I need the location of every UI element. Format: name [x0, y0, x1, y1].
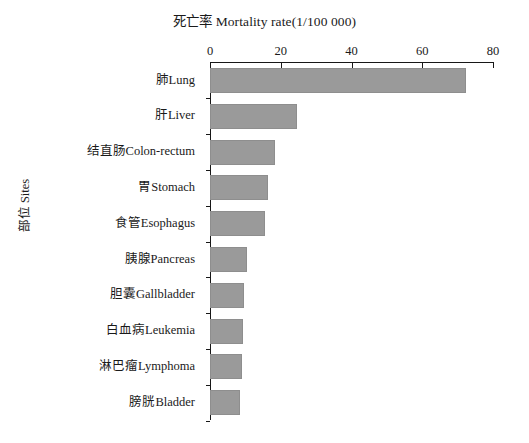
y-axis-tick	[206, 134, 210, 135]
category-label: 肝Liver	[0, 109, 202, 122]
x-axis-tick-label: 40	[332, 44, 372, 59]
bar	[210, 354, 242, 379]
mortality-rate-bar-chart: 死亡率 Mortality rate(1/100 000) 部位 Sites 肺…	[0, 0, 529, 443]
category-label: 胆囊Gallbladder	[0, 288, 202, 301]
y-axis-tick	[206, 313, 210, 314]
bar	[210, 104, 297, 129]
y-axis-tick	[206, 206, 210, 207]
x-axis-tick-label: 0	[190, 44, 230, 59]
y-axis-tick	[206, 385, 210, 386]
x-axis-tick-label: 20	[261, 44, 301, 59]
category-label: 白血病Leukemia	[0, 324, 202, 337]
x-axis-tick-label: 80	[473, 44, 513, 59]
x-axis-tick-label: 60	[402, 44, 442, 59]
y-axis-tick	[206, 349, 210, 350]
y-axis-tick	[206, 421, 210, 422]
category-label: 膀胱Bladder	[0, 396, 202, 409]
category-label: 胃Stomach	[0, 181, 202, 194]
bar	[210, 319, 243, 344]
bar	[210, 68, 466, 93]
x-axis-tick	[493, 62, 494, 68]
plot-area: 020406080	[210, 62, 493, 420]
category-label: 肺Lung	[0, 74, 202, 87]
y-axis-tick	[206, 242, 210, 243]
category-label: 食管Esophagus	[0, 217, 202, 230]
bar	[210, 211, 265, 236]
y-axis-tick	[206, 277, 210, 278]
category-label: 淋巴瘤Lymphoma	[0, 360, 202, 373]
chart-title: 死亡率 Mortality rate(1/100 000)	[0, 10, 529, 30]
y-axis-tick	[206, 98, 210, 99]
bar	[210, 247, 247, 272]
bar	[210, 390, 240, 415]
category-label: 结直肠Colon-rectum	[0, 145, 202, 158]
bar	[210, 283, 244, 308]
category-label: 胰腺Pancreas	[0, 253, 202, 266]
bar	[210, 140, 275, 165]
y-axis-tick	[206, 170, 210, 171]
bar	[210, 175, 268, 200]
